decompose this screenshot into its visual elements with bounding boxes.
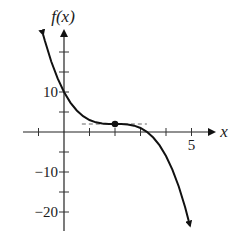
y-axis-label: f(x) [51,7,75,26]
function-graph: 510−10−20 f(x) x [0,0,234,233]
y-tick-label: 10 [43,84,58,100]
y-tick-label: −20 [35,204,58,220]
x-axis-label: x [219,122,228,141]
tick-labels: 510−10−20 [35,84,196,220]
critical-point-dot [112,121,119,128]
y-tick-label: −10 [35,164,58,180]
x-tick-label: 5 [188,137,196,153]
function-curve [43,34,190,225]
